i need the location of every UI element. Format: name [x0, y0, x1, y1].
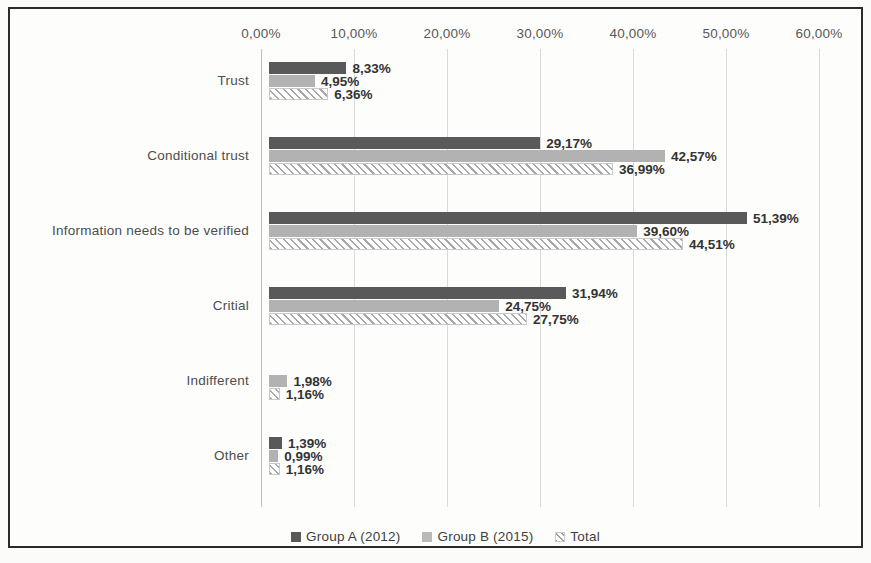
chart-legend: Group A (2012)Group B (2015)Total — [10, 529, 871, 544]
bar-group-item[interactable]: 31,94% — [269, 287, 566, 299]
bar-group-item[interactable]: 1,16% — [269, 463, 280, 475]
bar-value-label: 29,17% — [540, 136, 592, 151]
bar-group-item[interactable]: 27,75% — [269, 313, 527, 325]
bar-value-label: 39,60% — [637, 224, 689, 239]
bar-group-item[interactable] — [269, 362, 270, 374]
category-group: Critial31,94%24,75%27,75% — [10, 287, 871, 326]
category-label: Information needs to be verified — [52, 223, 261, 238]
legend-swatch-icon — [422, 532, 432, 542]
x-tick-label: 0,00% — [241, 26, 280, 41]
bar[interactable] — [269, 450, 278, 462]
bar[interactable] — [269, 212, 747, 224]
bar-value-label: 44,51% — [683, 237, 735, 252]
x-tick-label: 20,00% — [424, 26, 471, 41]
legend-swatch-icon — [555, 532, 565, 542]
category-label: Conditional trust — [147, 148, 261, 163]
bar[interactable] — [269, 375, 287, 387]
bar[interactable] — [269, 75, 315, 87]
legend-item[interactable]: Group A (2012) — [291, 529, 400, 544]
category-label: Critial — [213, 298, 261, 313]
bar-group-item[interactable]: 6,36% — [269, 88, 328, 100]
legend-label: Total — [570, 529, 600, 544]
legend-label: Group B (2015) — [437, 529, 533, 544]
bar-value-label: 6,36% — [328, 87, 372, 102]
bar-value-label: 31,94% — [566, 286, 618, 301]
category-label: Indifferent — [186, 373, 261, 388]
bar[interactable] — [269, 463, 280, 475]
bar-value-label: 51,39% — [747, 211, 799, 226]
category-group: Indifferent1,98%1,16% — [10, 362, 871, 401]
bar[interactable] — [269, 163, 613, 175]
x-tick-label: 30,00% — [517, 26, 564, 41]
category-label: Other — [214, 448, 261, 463]
category-group: Conditional trust29,17%42,57%36,99% — [10, 137, 871, 176]
bar-group-item[interactable]: 8,33% — [269, 62, 346, 74]
category-group: Information needs to be verified51,39%39… — [10, 212, 871, 251]
category-label: Trust — [218, 73, 262, 88]
bar-group-item[interactable]: 1,16% — [269, 388, 280, 400]
bar[interactable] — [269, 225, 637, 237]
bar-group-item[interactable]: 24,75% — [269, 300, 499, 312]
bar[interactable] — [269, 238, 683, 250]
bar-value-label: 27,75% — [527, 312, 579, 327]
bar-group-item[interactable]: 29,17% — [269, 137, 540, 149]
bar-group-item[interactable]: 44,51% — [269, 238, 683, 250]
bar[interactable] — [269, 137, 540, 149]
bar-group-item[interactable]: 0,99% — [269, 450, 278, 462]
bar-group-item[interactable]: 1,39% — [269, 437, 282, 449]
x-tick-label: 50,00% — [703, 26, 750, 41]
bar-value-label: 36,99% — [613, 162, 665, 177]
bar[interactable] — [269, 62, 346, 74]
legend-label: Group A (2012) — [306, 529, 400, 544]
bar[interactable] — [269, 388, 280, 400]
category-group: Trust8,33%4,95%6,36% — [10, 62, 871, 101]
legend-swatch-icon — [291, 532, 301, 542]
bar[interactable] — [269, 287, 566, 299]
bar-value-label: 1,16% — [280, 387, 324, 402]
bar[interactable] — [269, 437, 282, 449]
bar[interactable] — [269, 313, 527, 325]
bar-value-label: 42,57% — [665, 149, 717, 164]
bar[interactable] — [269, 150, 665, 162]
x-tick-label: 60,00% — [796, 26, 843, 41]
chart-frame: 0,00%10,00%20,00%30,00%40,00%50,00%60,00… — [8, 7, 863, 548]
bar-group-item[interactable]: 51,39% — [269, 212, 747, 224]
bar[interactable] — [269, 88, 328, 100]
page-background: 0,00%10,00%20,00%30,00%40,00%50,00%60,00… — [0, 0, 871, 563]
bar-group-item[interactable]: 1,98% — [269, 375, 287, 387]
legend-item[interactable]: Total — [555, 529, 600, 544]
legend-item[interactable]: Group B (2015) — [422, 529, 533, 544]
bar-group-item[interactable]: 4,95% — [269, 75, 315, 87]
bar-group-item[interactable]: 42,57% — [269, 150, 665, 162]
bar-value-label: 1,16% — [280, 462, 324, 477]
x-tick-label: 40,00% — [610, 26, 657, 41]
category-group: Other1,39%0,99%1,16% — [10, 437, 871, 476]
x-tick-label: 10,00% — [331, 26, 378, 41]
bar[interactable] — [269, 300, 499, 312]
bar-group-item[interactable]: 36,99% — [269, 163, 613, 175]
bar-group-item[interactable]: 39,60% — [269, 225, 637, 237]
